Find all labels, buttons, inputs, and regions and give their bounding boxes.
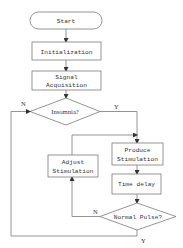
- adjust-stimulation-label-1: Adjust: [62, 159, 85, 166]
- initialization-node: Initialization: [32, 42, 101, 60]
- produce-stimulation-node: Produce Stimulation: [112, 143, 163, 165]
- insomnia-yes-label: Y: [114, 103, 119, 110]
- start-label: Start: [57, 18, 76, 25]
- adjust-stimulation-label-2: Stimulation: [53, 168, 94, 175]
- signal-acquisition-label-1: Signal: [55, 74, 78, 81]
- time-delay-label: Time delay: [118, 181, 155, 188]
- flowchart: Start Initialization Signal Acquisition …: [0, 0, 183, 248]
- insomnia-no-label: N: [21, 100, 26, 107]
- produce-stimulation-label-1: Produce: [125, 147, 151, 154]
- insomnia-label: Insomnia?: [51, 108, 79, 115]
- pulse-yes-label: Y: [141, 237, 146, 244]
- normal-pulse-decision: Normal Pulse?: [100, 203, 176, 230]
- adjust-stimulation-node: Adjust Stimulation: [48, 155, 98, 177]
- edge-insomnia-yes: [100, 112, 137, 144]
- normal-pulse-label: Normal Pulse?: [114, 214, 163, 221]
- start-node: Start: [30, 12, 102, 29]
- initialization-label: Initialization: [41, 49, 93, 56]
- time-delay-node: Time delay: [112, 174, 161, 194]
- signal-acquisition-label-2: Acquisition: [46, 82, 87, 89]
- produce-stimulation-label-2: Stimulation: [117, 156, 158, 163]
- insomnia-decision: Insomnia?: [30, 98, 100, 125]
- signal-acquisition-node: Signal Acquisition: [32, 71, 101, 90]
- pulse-no-label: N: [93, 208, 98, 215]
